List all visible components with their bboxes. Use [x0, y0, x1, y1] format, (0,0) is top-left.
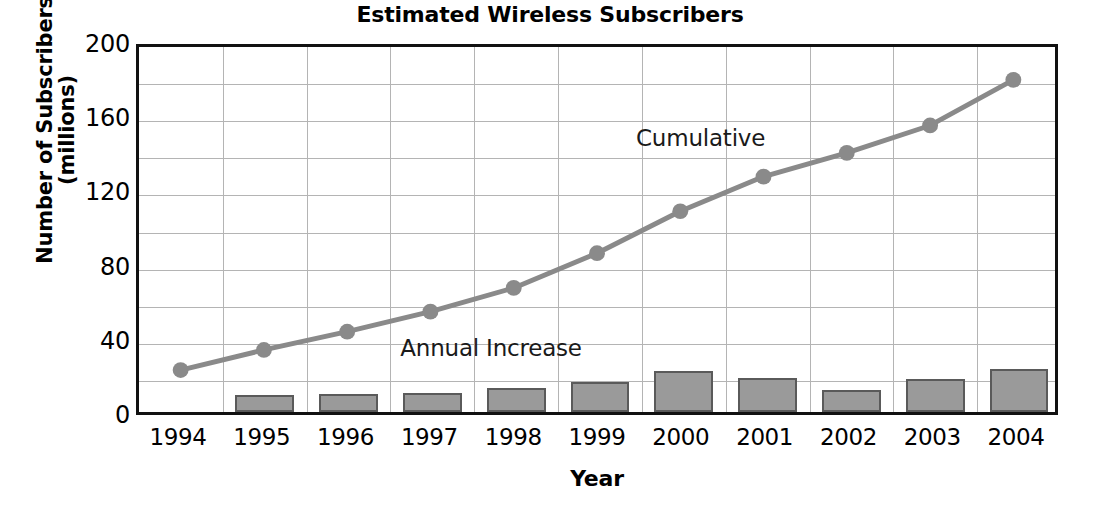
- data-point-marker: 1997: 55: [423, 304, 439, 320]
- x-tick-label: 2003: [884, 424, 980, 450]
- x-tick-label: 1998: [465, 424, 561, 450]
- line-path: [181, 80, 1014, 370]
- data-point-marker: 2002: 142: [839, 145, 855, 161]
- data-point-marker: 2004: 182: [1005, 72, 1021, 88]
- data-point-marker: 1996: 44: [339, 324, 355, 340]
- data-point-marker: 1998: 68: [506, 280, 522, 296]
- x-tick-label: 1996: [298, 424, 394, 450]
- x-tick-label: 1997: [381, 424, 477, 450]
- data-point-marker: 2000: 110: [672, 203, 688, 219]
- x-tick-label: 1994: [130, 424, 226, 450]
- plot-area: 1994: 231995: 341996: 441997: 551998: 68…: [136, 44, 1058, 415]
- x-tick-label: 1999: [549, 424, 645, 450]
- y-tick-label: 120: [60, 178, 130, 206]
- chart-figure: Estimated Wireless Subscribers Number of…: [0, 0, 1100, 508]
- plot-inner: 1994: 231995: 341996: 441997: 551998: 68…: [139, 47, 1055, 412]
- y-tick-label: 200: [60, 30, 130, 58]
- y-tick-label: 40: [60, 327, 130, 355]
- y-tick-label: 0: [60, 401, 130, 429]
- data-point-marker: 2003: 157: [922, 118, 938, 134]
- series-label-cumulative: Cumulative: [636, 125, 765, 151]
- x-tick-label: 1995: [214, 424, 310, 450]
- line-series-cumulative: 1994: 231995: 341996: 441997: 551998: 68…: [139, 47, 1055, 412]
- data-point-marker: 2001: 129: [756, 169, 772, 185]
- data-point-marker: 1999: 87: [589, 245, 605, 261]
- series-label-annual-increase: Annual Increase: [400, 335, 582, 361]
- x-tick-label: 2001: [717, 424, 813, 450]
- y-axis-tick-labels: 04080120160200: [56, 0, 130, 508]
- x-axis-title: Year: [136, 466, 1058, 491]
- chart-title: Estimated Wireless Subscribers: [0, 2, 1100, 27]
- x-tick-label: 2000: [633, 424, 729, 450]
- x-tick-label: 2004: [968, 424, 1064, 450]
- x-tick-label: 2002: [800, 424, 896, 450]
- data-point-marker: 1995: 34: [256, 342, 272, 358]
- y-tick-label: 80: [60, 253, 130, 281]
- y-tick-label: 160: [60, 104, 130, 132]
- data-point-marker: 1994: 23: [173, 362, 189, 378]
